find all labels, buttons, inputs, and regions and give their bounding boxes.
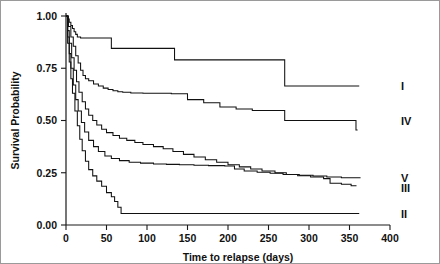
x-tick-label: 350 bbox=[341, 232, 359, 244]
x-tick-label: 250 bbox=[260, 232, 278, 244]
x-tick-label-group: 050100150200250300350400 bbox=[63, 232, 399, 244]
x-tick-label: 300 bbox=[300, 232, 318, 244]
x-axis-title: Time to relapse (days) bbox=[183, 251, 294, 263]
y-axis-title: Survival Probability bbox=[9, 71, 21, 169]
survival-plot: 0.000.250.500.751.00 0501001502002503003… bbox=[1, 1, 440, 264]
axis-line-group bbox=[66, 13, 390, 225]
x-tick-label: 50 bbox=[101, 232, 113, 244]
y-tick-label: 0.00 bbox=[37, 219, 58, 231]
curve-label-I: I bbox=[401, 80, 404, 92]
y-tick-label: 0.25 bbox=[37, 167, 58, 179]
y-tick-label: 0.50 bbox=[37, 114, 58, 126]
x-tick-label: 100 bbox=[138, 232, 156, 244]
curve-label-IV: IV bbox=[401, 115, 412, 127]
curve-group bbox=[66, 16, 360, 214]
x-tick-label: 0 bbox=[63, 232, 69, 244]
survival-curve-II bbox=[66, 16, 359, 214]
survival-curve-I bbox=[66, 16, 359, 86]
y-tick-label: 1.00 bbox=[37, 10, 58, 22]
curve-label-II: II bbox=[401, 208, 407, 220]
x-tick-label: 200 bbox=[219, 232, 237, 244]
x-tick-label: 400 bbox=[381, 232, 399, 244]
y-tick-label-group: 0.000.250.500.751.00 bbox=[37, 10, 58, 231]
survival-curve-figure: 0.000.250.500.751.00 0501001502002503003… bbox=[0, 0, 440, 264]
x-tick-label: 150 bbox=[179, 232, 197, 244]
survival-curve-V bbox=[66, 16, 360, 178]
y-tick-label: 0.75 bbox=[37, 62, 58, 74]
survival-curve-III bbox=[66, 16, 356, 186]
curve-label-group: IIVVIIIII bbox=[401, 80, 412, 219]
curve-label-III: III bbox=[401, 182, 410, 194]
tick-mark-group bbox=[61, 16, 390, 230]
survival-curve-IV bbox=[66, 16, 358, 130]
